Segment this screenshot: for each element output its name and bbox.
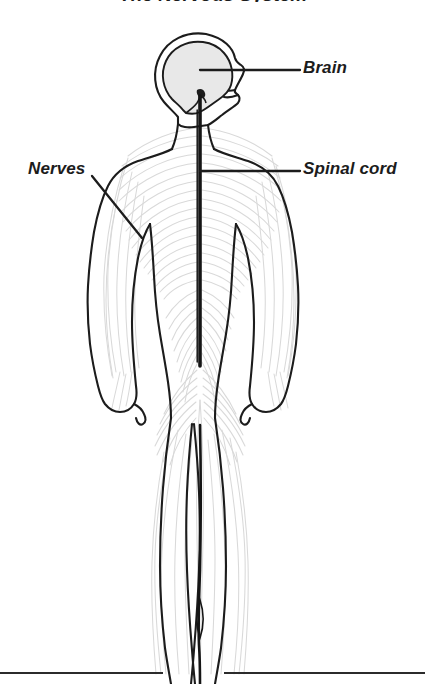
label-spinal-cord: Spinal cord: [303, 159, 397, 179]
anatomy-illustration: [0, 0, 425, 684]
human-body-outline: [88, 33, 299, 684]
nervous-system-figure: The Nervous System: [0, 0, 425, 684]
spinal-cord: [197, 96, 200, 366]
label-nerves: Nerves: [28, 159, 85, 179]
label-brain: Brain: [303, 58, 347, 78]
